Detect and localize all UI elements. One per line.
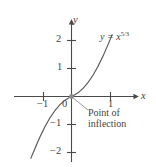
origin-label: 0 <box>62 98 67 109</box>
x-axis-label: x <box>141 90 146 101</box>
x-tick-label-neg1: −1 <box>37 98 48 109</box>
inflection-annotation-line2: inflection <box>88 119 126 130</box>
inflection-annotation-line1: Point of <box>88 107 120 118</box>
curve-equation-label: y = x5/3 <box>100 30 129 43</box>
y-tick-label-neg2: −2 <box>50 145 61 156</box>
curve-equation-base: y = x <box>100 31 121 42</box>
inflection-annotation: Point of inflection <box>88 108 126 130</box>
graph-figure: y x 0 −1 1 2 1 −1 −2 y = x5/3 Point of i… <box>0 0 156 167</box>
y-axis-label: y <box>73 14 78 25</box>
plot-canvas <box>0 0 156 167</box>
y-tick-label-pos1: 1 <box>57 61 62 72</box>
y-tick-label-neg1: −1 <box>50 117 61 128</box>
annotation-leader-line <box>73 98 89 111</box>
y-tick-label-pos2: 2 <box>56 33 61 44</box>
curve-equation-exponent: 5/3 <box>121 30 129 37</box>
